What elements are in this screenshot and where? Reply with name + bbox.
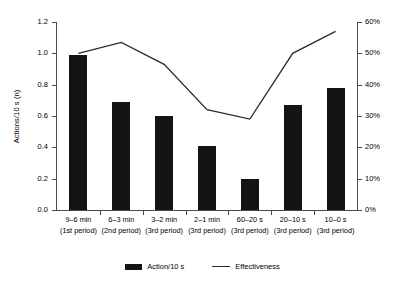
effectiveness-polyline [78,31,335,119]
bar-swatch-icon [125,264,142,270]
x-category-primary: 3–2 min [151,215,177,224]
left-tick-label: 1.0 [38,49,48,57]
chart-legend: Action/10 s Effectiveness [0,262,405,271]
left-tick-mark [52,116,56,117]
effectiveness-actions-chart: Actions/10 s (n) 0.00.20.40.60.81.01.2 0… [0,0,405,289]
right-tick-label: 60% [365,18,380,26]
legend-entry-effectiveness: Effectiveness [212,262,279,271]
left-tick-mark [52,179,56,180]
legend-entry-action: Action/10 s [125,262,184,271]
right-tick-label: 20% [365,143,380,151]
x-category-primary: 6–3 min [108,215,134,224]
left-tick-label: 0.4 [38,143,48,151]
x-category-label: 10–0 s(3rd period) [308,214,364,236]
legend-label-action: Action/10 s [147,262,184,271]
left-tick-label: 0.2 [38,175,48,183]
left-tick-label: 0.0 [38,206,48,214]
left-tick-label: 0.8 [38,81,48,89]
right-tick-mark [358,85,362,86]
right-tick-label: 40% [365,81,380,89]
left-tick-label: 1.2 [38,18,48,26]
effectiveness-line-series [57,22,357,210]
line-swatch-icon [212,266,230,267]
right-tick-mark [358,210,362,211]
bottom-axis-line [56,210,358,211]
x-category-primary: 10–0 s [325,215,347,224]
right-tick-label: 30% [365,112,380,120]
left-tick-mark [52,22,56,23]
x-axis-category-labels: 9–6 min(1st period)6–3 min(2nd period)3–… [57,214,357,244]
x-category-primary: 2–1 min [194,215,220,224]
right-tick-mark [358,179,362,180]
y-axis-title: Actions/10 s (n) [12,57,21,177]
left-tick-mark [52,147,56,148]
right-tick-mark [358,22,362,23]
legend-label-effectiveness: Effectiveness [235,262,279,271]
right-tick-mark [358,53,362,54]
left-tick-mark [52,85,56,86]
right-tick-label: 10% [365,175,380,183]
x-category-sublabel: (3rd period) [308,225,364,236]
right-tick-mark [358,147,362,148]
right-tick-label: 0% [365,206,376,214]
x-category-primary: 20–10 s [280,215,306,224]
right-tick-mark [358,116,362,117]
left-tick-mark [52,53,56,54]
right-tick-label: 50% [365,49,380,57]
left-tick-label: 0.6 [38,112,48,120]
plot-area: 0.00.20.40.60.81.01.2 0%10%20%30%40%50%6… [57,22,357,210]
x-category-primary: 9–6 min [65,215,91,224]
x-category-primary: 60–20 s [237,215,263,224]
left-tick-mark [52,210,56,211]
